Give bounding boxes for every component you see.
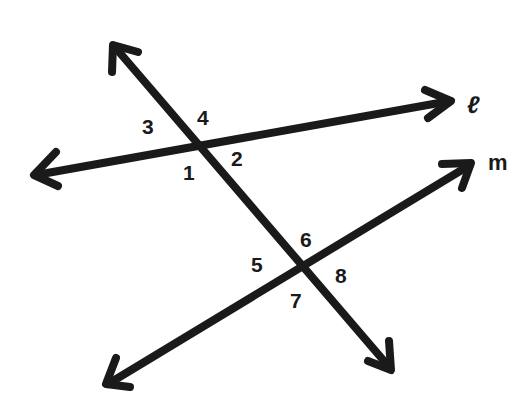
- line-transversal: [112, 45, 391, 370]
- line-l: [34, 90, 451, 186]
- line-label-m: m: [488, 150, 508, 175]
- angle-label-6: 6: [300, 228, 312, 251]
- angle-label-7: 7: [290, 289, 302, 312]
- line-label-l: ℓ: [467, 91, 480, 118]
- diagram-canvas: ℓ m 3 4 1 2 5 6 7 8: [0, 0, 532, 418]
- angle-label-2: 2: [231, 147, 243, 170]
- angle-label-3: 3: [142, 115, 154, 138]
- line-m: [106, 163, 471, 387]
- angle-label-4: 4: [197, 106, 209, 129]
- angle-label-5: 5: [251, 253, 263, 276]
- transversal-diagram: ℓ m 3 4 1 2 5 6 7 8: [0, 0, 532, 418]
- angle-label-8: 8: [335, 264, 347, 287]
- angle-label-1: 1: [183, 161, 195, 184]
